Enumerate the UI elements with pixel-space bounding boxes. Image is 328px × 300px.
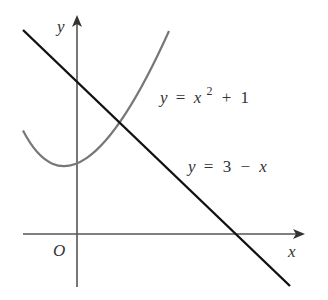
parabola-equation-label: y = x 2 + 1 [158, 80, 249, 107]
line-eq-equals: = [204, 157, 214, 176]
parabola-eq-exponent: 2 [206, 84, 212, 98]
parabola-eq-equals: = [176, 88, 186, 107]
origin-label: O [53, 241, 65, 260]
line-eq-const: 3 [223, 157, 232, 176]
line-eq-lhs: y [186, 157, 196, 176]
y-axis-label: y [55, 17, 65, 36]
parabola-eq-var: x [193, 88, 202, 107]
graph-figure: y x O y = x 2 + 1 y = 3 − x [0, 0, 328, 300]
x-axis-label: x [287, 242, 296, 261]
line-eq-minus: − [240, 157, 250, 176]
parabola-eq-plus: + [222, 88, 232, 107]
parabola-eq-lhs: y [158, 88, 168, 107]
line-eq-var: x [258, 157, 267, 176]
line-equation-label: y = 3 − x [186, 157, 267, 176]
parabola-eq-const: 1 [241, 88, 250, 107]
